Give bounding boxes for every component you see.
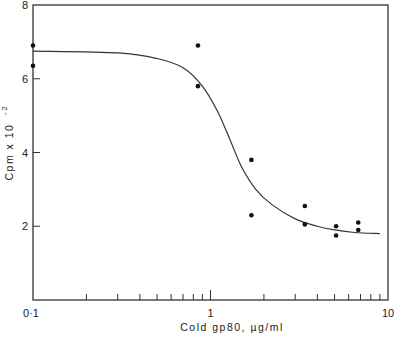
data-point	[303, 222, 308, 227]
y-tick-label: 4	[22, 147, 28, 159]
y-axis-tick-labels: 2468	[22, 0, 28, 232]
data-point	[303, 204, 308, 209]
x-tick-label: 10	[382, 307, 394, 319]
x-axis-tick-labels: 0·1110	[23, 307, 394, 319]
x-tick-label: 0·1	[23, 307, 39, 319]
fitted-curve	[33, 51, 380, 234]
data-point	[249, 213, 254, 218]
y-tick-label: 6	[22, 73, 28, 85]
data-point	[31, 43, 36, 48]
chart: 0·1110 2468 Cold gp80, µg/ml Cpm x 10 -2	[0, 0, 398, 340]
data-point	[334, 233, 339, 238]
plot-frame	[33, 5, 388, 300]
y-tick-label: 2	[22, 220, 28, 232]
data-point	[196, 43, 201, 48]
x-axis-label: Cold gp80, µg/ml	[180, 321, 284, 333]
svg-text:-2: -2	[0, 105, 9, 115]
x-tick-label: 1	[207, 307, 213, 319]
y-axis-label: Cpm x 10 -2	[0, 105, 15, 181]
data-point	[334, 224, 339, 229]
svg-text:Cpm x 10: Cpm x 10	[3, 124, 15, 181]
data-point	[356, 228, 361, 233]
data-point	[249, 158, 254, 163]
data-point	[31, 64, 36, 69]
data-point	[196, 84, 201, 89]
x-axis-ticks	[86, 290, 379, 300]
data-point	[356, 220, 361, 225]
y-axis-ticks	[33, 79, 40, 227]
data-points	[31, 43, 361, 238]
y-tick-label: 8	[22, 0, 28, 11]
